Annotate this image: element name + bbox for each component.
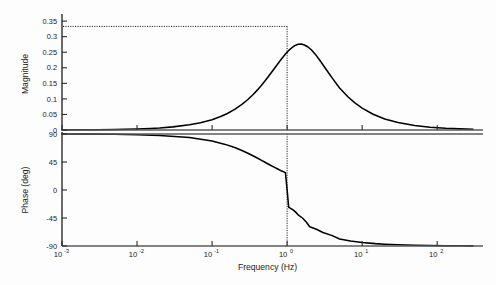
magnitude-y-tick-label: 0.05 bbox=[43, 110, 57, 119]
magnitude-y-tick-label: 0.2 bbox=[47, 63, 57, 72]
frequency-axis-title: Frequency (Hz) bbox=[238, 262, 297, 272]
frequency-tick-mantissa: 10 bbox=[54, 250, 62, 259]
magnitude-y-tick-label: 0.25 bbox=[43, 48, 57, 57]
magnitude-y-tick-label: 0.1 bbox=[47, 95, 57, 104]
frequency-tick-mantissa: 10 bbox=[204, 250, 212, 259]
phase-axis-title: Phase (deg) bbox=[20, 166, 30, 213]
phase-y-tick-label: 0 bbox=[53, 186, 57, 195]
bode-plot-canvas: 00.050.10.150.20.250.30.35 Magnitude 904… bbox=[0, 0, 496, 285]
frequency-tick-mantissa: 10 bbox=[279, 250, 287, 259]
magnitude-axis-title: Magnitude bbox=[20, 54, 30, 94]
magnitude-y-tick-label: 0.15 bbox=[43, 79, 57, 88]
frequency-tick-mantissa: 10 bbox=[429, 250, 437, 259]
figure-background bbox=[0, 0, 496, 285]
frequency-tick-mantissa: 10 bbox=[129, 250, 137, 259]
frequency-tick-exponent: 0 bbox=[290, 248, 293, 254]
frequency-tick-mantissa: 10 bbox=[354, 250, 362, 259]
frequency-tick-exponent: -1 bbox=[214, 248, 219, 254]
phase-y-tick-label: 45 bbox=[49, 158, 57, 167]
frequency-tick-exponent: 1 bbox=[365, 248, 368, 254]
phase-y-tick-label: -45 bbox=[46, 214, 57, 223]
magnitude-y-tick-label: 0.35 bbox=[43, 17, 57, 26]
frequency-tick-exponent: 2 bbox=[440, 248, 443, 254]
bode-plot-figure: 00.050.10.150.20.250.30.35 Magnitude 904… bbox=[0, 0, 496, 285]
magnitude-y-tick-label: 0.3 bbox=[47, 32, 57, 41]
phase-y-tick-label: 90 bbox=[49, 130, 57, 139]
frequency-tick-exponent: -3 bbox=[64, 248, 69, 254]
frequency-tick-exponent: -2 bbox=[139, 248, 144, 254]
